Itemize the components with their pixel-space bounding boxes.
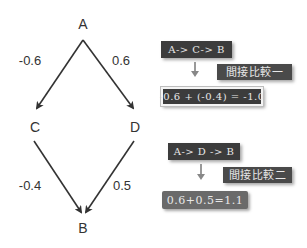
path-box-1: A-> C-> B: [161, 41, 232, 58]
path-box-2: A-> D -> B: [168, 143, 240, 160]
edge-label-a-d: 0.6: [112, 53, 130, 68]
result-box-1: -0.6 + (-0.4) = -1.0: [161, 87, 263, 106]
network-diagram: A C D B -0.6 0.6 -0.4 0.5: [0, 0, 160, 248]
node-b: B: [78, 220, 87, 236]
down-arrow-icon: [196, 164, 206, 181]
down-arrow-icon: [190, 62, 200, 78]
edge-label-c-b: -0.4: [19, 178, 41, 193]
edge-a-c: [37, 40, 83, 108]
result-box-2: 0.6+0.5=1.1: [162, 191, 248, 209]
node-a: A: [78, 16, 88, 32]
edge-c-b: [34, 141, 81, 212]
tag-box-2: 間接比較二: [223, 167, 292, 183]
tag-box-1: 間接比較一: [217, 64, 292, 80]
edge-label-d-b: 0.5: [113, 178, 131, 193]
edge-label-a-c: -0.6: [19, 53, 41, 68]
edge-d-b: [86, 141, 134, 212]
node-c: C: [30, 119, 40, 135]
edge-a-d: [83, 40, 133, 108]
node-d: D: [130, 119, 140, 135]
